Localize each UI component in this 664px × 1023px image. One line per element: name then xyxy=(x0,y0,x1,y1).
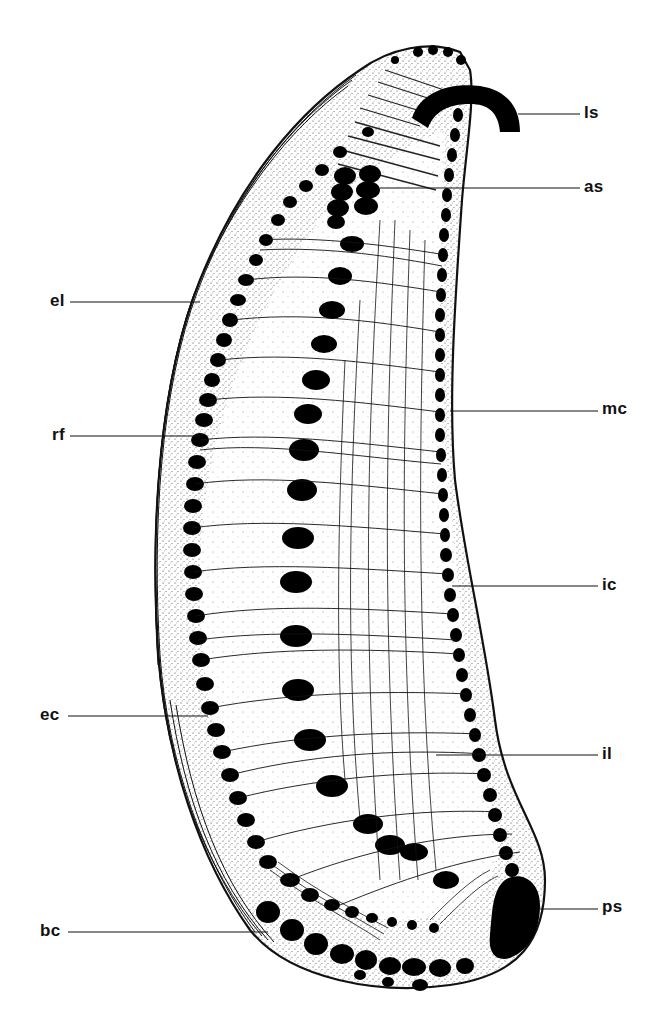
label-ps: ps xyxy=(602,898,622,915)
label-il: il xyxy=(602,745,612,762)
label-el: el xyxy=(50,292,65,309)
label-ic: ic xyxy=(602,576,617,593)
label-bc: bc xyxy=(40,922,60,939)
label-ec: ec xyxy=(40,706,60,723)
organ-diagram xyxy=(0,0,664,1023)
label-rf: rf xyxy=(52,426,65,443)
label-mc: mc xyxy=(602,400,627,417)
label-as: as xyxy=(584,178,604,195)
label-ls: ls xyxy=(584,104,599,121)
